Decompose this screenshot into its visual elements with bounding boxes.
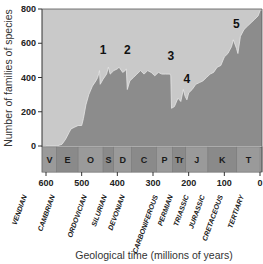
x-axis-ticks: 6005004003002001000 [38, 172, 262, 188]
period-name: VENDIAN [11, 193, 29, 226]
period-abbr: O [87, 155, 94, 165]
period-abbr: T [246, 155, 252, 165]
y-tick-label: 200 [21, 107, 36, 117]
period-abbr: P [162, 155, 168, 165]
period-name: PERMIAN [156, 193, 174, 227]
extinction-marker: 5 [233, 17, 240, 31]
period-name: ORDOVICIAN [66, 193, 88, 238]
period-abbr: V [47, 155, 53, 165]
x-tick-label: 0 [257, 178, 262, 188]
period-name: CAMBRIAN [36, 193, 56, 232]
period-abbr: S [105, 155, 111, 165]
extinction-marker: 3 [167, 49, 174, 63]
extinction-marker: 2 [124, 43, 131, 57]
y-tick-label: 400 [21, 73, 36, 83]
period-abbr: D [119, 155, 126, 165]
y-tick-label: 800 [21, 4, 36, 14]
x-tick-label: 400 [110, 178, 125, 188]
y-tick-label: 600 [21, 38, 36, 48]
extinction-marker: 1 [100, 43, 107, 57]
x-tick-label: 200 [181, 178, 196, 188]
period-name: DEVONIAN [107, 193, 127, 231]
x-tick-label: 600 [38, 178, 53, 188]
period-abbr: J [194, 155, 199, 165]
y-tick-label: 0 [31, 141, 36, 151]
period-abbr: K [219, 155, 226, 165]
x-tick-label: 500 [74, 178, 89, 188]
period-abbr: E [64, 155, 70, 165]
x-axis-label: Geological time (millions of years) [75, 249, 233, 261]
y-axis-label: Number of families of species [2, 9, 14, 147]
x-tick-label: 300 [145, 178, 160, 188]
extinction-chart: VEOSDCPTrJKT 0200400600800 6005004003002… [0, 0, 263, 264]
period-name: SILURIAN [90, 193, 108, 227]
period-name: TRIASSIC [172, 193, 190, 227]
y-axis-ticks: 0200400600800 [21, 4, 42, 151]
period-names: VENDIANCAMBRIANORDOVICIANSILURIANDEVONIA… [11, 193, 246, 255]
period-abbr: C [141, 155, 148, 165]
x-tick-label: 100 [217, 178, 232, 188]
period-name: JURASSIC [187, 193, 206, 230]
period-name: CARBONIFEROUS [131, 194, 159, 255]
extinction-marker: 4 [184, 72, 191, 86]
period-band: VEOSDCPTrJKT [42, 147, 262, 172]
period-name: TERTIARY [226, 193, 245, 229]
period-abbr: Tr [175, 155, 184, 165]
